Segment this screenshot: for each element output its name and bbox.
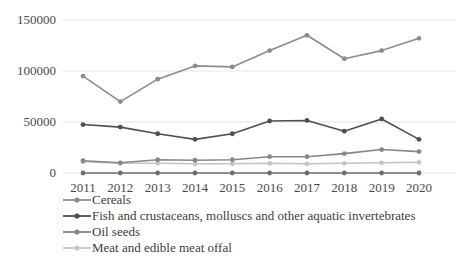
legend-item-label: Cereals xyxy=(92,193,131,207)
data-point-marker xyxy=(230,161,235,166)
legend-item-fish-and-crustaceans[interactable]: Fish and crustaceans, molluscs and other… xyxy=(62,208,456,224)
data-point-marker xyxy=(305,171,310,176)
data-point-marker xyxy=(155,77,160,82)
data-point-marker xyxy=(230,157,235,162)
data-point-marker xyxy=(193,137,198,142)
data-point-marker xyxy=(417,160,422,165)
series-axis-baseline xyxy=(81,171,422,176)
data-point-marker xyxy=(267,119,272,124)
data-point-marker xyxy=(305,33,310,38)
data-point-marker xyxy=(379,117,384,122)
legend-marker-icon xyxy=(62,225,92,239)
data-point-marker xyxy=(379,48,384,53)
data-point-marker xyxy=(342,129,347,134)
data-point-marker xyxy=(379,160,384,165)
chart-legend: Cereals Fish and crustaceans, molluscs a… xyxy=(62,192,456,256)
y-axis-tick-label: 100000 xyxy=(0,64,56,77)
legend-item-cereals[interactable]: Cereals xyxy=(62,192,456,208)
data-point-marker xyxy=(118,171,123,176)
data-point-marker xyxy=(81,122,86,127)
data-point-marker xyxy=(81,74,86,79)
plot-canvas xyxy=(0,0,456,196)
data-point-marker xyxy=(193,158,198,163)
legend-marker-icon xyxy=(62,241,92,255)
legend-item-oil-seeds[interactable]: Oil seeds xyxy=(62,224,456,240)
data-point-marker xyxy=(342,151,347,156)
data-point-marker xyxy=(155,171,160,176)
data-point-marker xyxy=(267,48,272,53)
data-point-marker xyxy=(193,171,198,176)
data-point-marker xyxy=(230,131,235,136)
data-point-marker xyxy=(230,171,235,176)
legend-item-label: Oil seeds xyxy=(92,225,140,239)
data-point-marker xyxy=(118,125,123,130)
data-point-marker xyxy=(417,171,422,176)
data-point-marker xyxy=(305,118,310,123)
data-point-marker xyxy=(267,161,272,166)
data-point-marker xyxy=(118,99,123,104)
series-cereals xyxy=(81,33,422,104)
data-point-marker xyxy=(193,64,198,69)
data-point-marker xyxy=(305,154,310,159)
series-line xyxy=(83,35,419,101)
data-point-marker xyxy=(379,171,384,176)
series-fish-and-crustaceans-molluscs-and-other-aquatic-invertebrates xyxy=(81,117,422,142)
data-point-marker xyxy=(81,158,86,163)
y-axis-tick-label: 150000 xyxy=(0,13,56,26)
data-point-marker xyxy=(305,161,310,166)
legend-item-label: Meat and edible meat offal xyxy=(92,241,232,255)
legend-marker-icon xyxy=(62,209,92,223)
legend-marker-icon xyxy=(62,193,92,207)
plot-area: 050000100000150000 201120122013201420152… xyxy=(0,0,456,196)
data-point-marker xyxy=(81,171,86,176)
series-line xyxy=(83,150,419,163)
data-point-marker xyxy=(417,149,422,154)
data-point-marker xyxy=(417,137,422,142)
data-point-marker xyxy=(118,160,123,165)
data-point-marker xyxy=(267,171,272,176)
data-point-marker xyxy=(342,161,347,166)
legend-item-label: Fish and crustaceans, molluscs and other… xyxy=(92,209,415,223)
data-point-marker xyxy=(155,157,160,162)
data-point-marker xyxy=(230,65,235,70)
data-point-marker xyxy=(155,131,160,136)
data-point-marker xyxy=(267,154,272,159)
data-point-marker xyxy=(342,171,347,176)
series-layer xyxy=(81,33,422,176)
y-axis-tick-label: 0 xyxy=(0,166,56,179)
line-chart: 050000100000150000 201120122013201420152… xyxy=(0,0,456,263)
data-point-marker xyxy=(342,56,347,61)
data-point-marker xyxy=(417,36,422,41)
y-axis-tick-label: 50000 xyxy=(0,115,56,128)
data-point-marker xyxy=(379,147,384,152)
series-meat-and-edible-meat-offal xyxy=(81,159,422,166)
legend-item-meat-and-edible-meat-offal[interactable]: Meat and edible meat offal xyxy=(62,240,456,256)
